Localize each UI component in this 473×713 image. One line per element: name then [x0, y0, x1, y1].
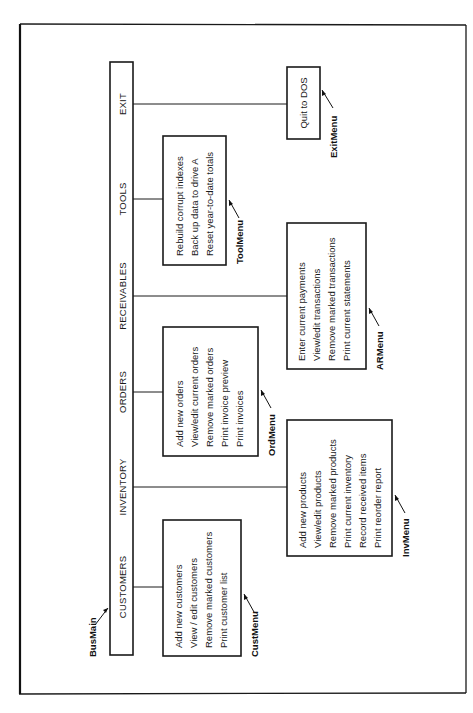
receivables-menu: Enter current payments View/edit transac… — [287, 223, 385, 370]
customers-menu-label: CustMenu — [249, 611, 260, 657]
receivables-menu-item: View/edit transactions — [311, 269, 322, 361]
orders-menu-item: Print invoices — [234, 390, 245, 447]
tools-menu-item: Rebuild corrupt indexes — [174, 156, 185, 256]
main-menu-item-exit: EXIT — [117, 93, 128, 115]
inventory-menu-label: InvMenu — [400, 518, 411, 557]
exit-menu-item: Quit to DOS — [298, 77, 309, 128]
main-menu-item-orders: ORDERS — [117, 371, 128, 413]
receivables-menu-item: Remove marked transactions — [326, 237, 337, 361]
receivables-menu-label: ARMenu — [374, 331, 385, 370]
orders-menu: Add new orders View/edit current orders … — [163, 327, 277, 456]
main-menu-item-receivables: RECEIVABLES — [117, 262, 128, 330]
exit-menu-label: ExitMenu — [328, 116, 339, 158]
tools-menu-item: Back up data to drive A — [189, 158, 200, 256]
arrowhead-icon — [103, 608, 108, 613]
inventory-menu-item: View/edit products — [312, 470, 323, 548]
main-menu-item-tools: TOOLS — [117, 182, 128, 215]
orders-menu-item: View/edit current orders — [189, 347, 200, 447]
main-menu-bar: EXIT TOOLS RECEIVABLES ORDERS INVENTORY … — [110, 62, 133, 655]
orders-menu-item: Add new orders — [174, 380, 185, 447]
tools-menu-item: Reset year-to-date totals — [204, 152, 215, 256]
receivables-menu-item: Enter current payments — [296, 262, 307, 361]
menu-hierarchy-diagram: EXIT TOOLS RECEIVABLES ORDERS INVENTORY … — [0, 0, 473, 713]
customers-menu-item: View / edit customers — [188, 558, 199, 648]
receivables-menu-item: Print current statements — [341, 260, 352, 361]
inventory-menu-item: Record received items — [357, 453, 368, 548]
customers-menu-item: Add new customers — [173, 564, 184, 648]
main-menu-item-inventory: INVENTORY — [117, 458, 128, 515]
orders-menu-item: Print invoice preview — [219, 360, 230, 447]
busmain-callout: BusMain — [87, 608, 108, 657]
orders-menu-label: OrdMenu — [266, 414, 277, 456]
tools-menu-label: ToolMenu — [234, 220, 245, 264]
exit-menu: Quit to DOS ExitMenu — [287, 67, 339, 158]
customers-menu-item: Remove marked customers — [203, 532, 214, 648]
inventory-menu-item: Add new products — [297, 472, 308, 548]
main-menu-item-customers: CUSTOMERS — [117, 556, 128, 618]
inventory-menu-item: Print reorder report — [372, 467, 383, 548]
tools-menu: Rebuild corrupt indexes Back up data to … — [163, 136, 245, 265]
inventory-menu-item: Print current inventory — [342, 455, 353, 548]
orders-menu-item: Remove marked orders — [204, 347, 215, 447]
customers-menu-item: Print customer list — [218, 572, 229, 648]
inventory-menu: Add new products View/edit products Remo… — [287, 420, 411, 557]
inventory-menu-item: Remove marked products — [327, 439, 338, 548]
customers-menu: Add new customers View / edit customers … — [163, 520, 260, 657]
